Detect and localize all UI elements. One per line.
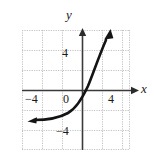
tick-label-y-negative-four: −4 <box>56 125 69 137</box>
tick-label-y-positive-four: 4 <box>62 47 68 59</box>
coordinate-plane <box>0 0 154 158</box>
x-axis-label: x <box>141 82 147 95</box>
tick-label-origin: 0 <box>63 93 69 105</box>
y-axis-label: y <box>66 8 72 21</box>
tick-label-x-positive-four: 4 <box>108 93 114 105</box>
graph-figure: y x −4 0 4 4 −4 <box>0 0 154 158</box>
tick-label-x-negative-four: −4 <box>25 93 38 105</box>
